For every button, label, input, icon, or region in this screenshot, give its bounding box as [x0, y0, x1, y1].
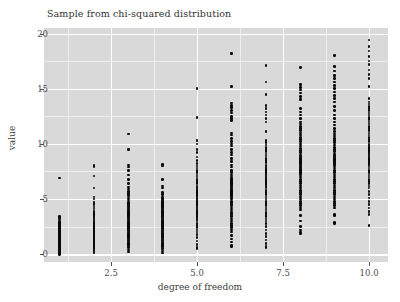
data-point [333, 97, 336, 100]
data-point [93, 175, 96, 178]
x-tick-label: 7.5 [276, 268, 290, 278]
data-point [265, 239, 268, 242]
data-point [230, 160, 233, 163]
x-tick-label: 2.5 [104, 268, 118, 278]
data-point [161, 165, 164, 168]
x-tick-mark [111, 262, 112, 266]
data-point [230, 119, 233, 122]
data-point [230, 148, 233, 151]
data-point [333, 117, 336, 120]
data-point [265, 111, 268, 114]
data-point [230, 166, 233, 169]
data-point [265, 235, 268, 238]
data-point [230, 245, 233, 248]
data-point [265, 107, 268, 110]
plot-panel [44, 28, 388, 262]
data-point [230, 231, 233, 234]
data-point [299, 214, 302, 217]
data-point [230, 52, 233, 55]
chart-title: Sample from chi-squared distribution [47, 8, 231, 19]
gridline-major-horizontal [44, 254, 388, 255]
data-point [265, 64, 268, 67]
gridline-major-horizontal [44, 89, 388, 90]
data-point [299, 117, 302, 120]
y-tick-mark [40, 254, 44, 255]
y-tick-mark [40, 144, 44, 145]
data-point [333, 70, 336, 73]
data-point [230, 157, 233, 160]
data-point [333, 87, 336, 90]
data-point [127, 251, 130, 254]
data-point [230, 241, 233, 244]
data-point [265, 93, 268, 96]
data-point [333, 121, 336, 124]
gridline-major-horizontal [44, 199, 388, 200]
data-point [299, 107, 302, 110]
data-point [161, 178, 164, 181]
data-point [299, 209, 302, 212]
y-tick-mark [40, 199, 44, 200]
gridline-minor-horizontal [44, 227, 388, 228]
data-point [333, 81, 336, 84]
data-point [265, 222, 268, 225]
x-tick-mark [283, 262, 284, 266]
x-axis-label: degree of freedom [0, 282, 400, 292]
data-point [333, 74, 336, 77]
y-tick-mark [40, 34, 44, 35]
data-point [265, 81, 268, 84]
data-point [127, 169, 130, 172]
data-point [265, 104, 268, 107]
data-point [265, 242, 268, 245]
data-point [58, 177, 61, 180]
data-point [230, 112, 233, 115]
data-point [230, 145, 233, 148]
gridline-minor-horizontal [44, 116, 388, 117]
data-point [127, 182, 130, 185]
y-axis-label: value [7, 108, 17, 168]
data-point [333, 109, 336, 112]
data-point [299, 232, 302, 235]
data-point [333, 214, 336, 217]
data-point [368, 210, 371, 213]
data-point [333, 105, 336, 108]
data-point [333, 91, 336, 94]
data-point [333, 77, 336, 80]
data-point [230, 137, 233, 140]
data-point [127, 174, 130, 177]
data-point [333, 94, 336, 97]
y-tick-mark [40, 89, 44, 90]
gridline-minor-horizontal [44, 61, 388, 62]
data-point [333, 101, 336, 104]
x-tick-label: 10.0 [360, 268, 379, 278]
data-point [230, 134, 233, 137]
data-point [127, 148, 130, 151]
data-point [58, 253, 61, 256]
data-point [127, 133, 130, 136]
x-tick-mark [197, 262, 198, 266]
data-point [265, 232, 268, 235]
data-point [299, 66, 302, 69]
data-point [299, 225, 302, 228]
data-point [333, 127, 336, 130]
x-tick-mark [369, 262, 370, 266]
data-point [93, 166, 96, 169]
gridline-major-horizontal [44, 34, 388, 35]
data-point [333, 207, 336, 210]
data-point [299, 98, 302, 101]
data-point [265, 121, 268, 124]
gridline-major-horizontal [44, 144, 388, 145]
data-point [230, 234, 233, 237]
gridline-minor-horizontal [44, 171, 388, 172]
data-point [299, 92, 302, 95]
data-point [230, 85, 233, 88]
data-point [299, 95, 302, 98]
data-point [230, 154, 233, 157]
chart-figure: Sample from chi-squared distribution 051… [0, 0, 400, 302]
data-point [230, 238, 233, 241]
data-point [93, 187, 96, 190]
data-point [265, 246, 268, 249]
x-tick-label: 5.0 [190, 268, 204, 278]
data-point [265, 130, 268, 133]
data-point [333, 124, 336, 127]
data-point [333, 54, 336, 57]
